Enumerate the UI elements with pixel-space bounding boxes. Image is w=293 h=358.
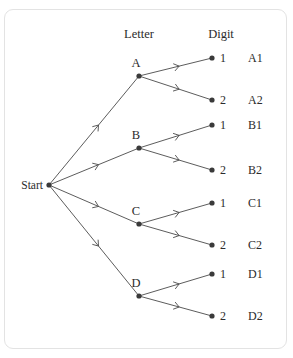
node-label-a: A [131,56,140,70]
edge-a-to-a2 [139,76,212,100]
edge-c-to-c1 [139,203,212,224]
digit-label-d1: 1 [220,267,226,281]
node-label-d: D [131,276,140,290]
node-dot-c2 [209,242,214,247]
digit-label-b1: 1 [220,118,226,132]
tree-diagram-canvas: LetterDigitStartABCD1A12A21B12B21C12C21D… [0,0,293,358]
digit-label-c1: 1 [220,196,226,210]
edge-start-to-a [49,76,139,185]
digit-label-c2: 2 [220,238,226,252]
node-dot-c [136,221,141,226]
digit-label-a1: 1 [220,51,226,65]
node-dot-d1 [209,271,214,276]
node-dot-a [136,73,141,78]
column-header-letter: Letter [124,27,155,41]
edge-start-to-c [49,185,139,224]
outcome-label-a1: A1 [248,51,263,65]
node-label-b: B [132,128,140,142]
outcome-label-a2: A2 [248,93,263,107]
edge-b-to-b2 [139,148,212,170]
node-dot-a2 [209,97,214,102]
digit-label-b2: 2 [220,163,226,177]
outcome-label-c2: C2 [248,238,262,252]
node-label-c: C [132,204,140,218]
edge-c-to-c2 [139,224,212,245]
digit-label-d2: 2 [220,309,226,323]
tree-diagram-figure: LetterDigitStartABCD1A12A21B12B21C12C21D… [0,0,293,358]
node-dot-b2 [209,167,214,172]
edge-start-to-d [49,185,139,296]
digit-label-a2: 2 [220,93,226,107]
edge-d-to-d1 [139,274,212,296]
arrowheads-group [93,64,180,309]
node-dot-d2 [209,313,214,318]
edge-start-to-b [49,148,139,185]
node-label-start: Start [21,179,44,191]
outcome-label-b2: B2 [248,163,262,177]
outcome-label-c1: C1 [248,196,262,210]
outcome-label-b1: B1 [248,118,262,132]
outcome-label-d2: D2 [248,309,263,323]
edge-b-to-b1 [139,125,212,148]
node-dot-d [136,293,141,298]
node-dot-a1 [209,55,214,60]
node-dot-b [136,145,141,150]
edge-d-to-d2 [139,296,212,316]
column-header-digit: Digit [208,27,234,41]
node-dot-start [46,182,51,187]
edge-a-to-a1 [139,58,212,76]
outcome-label-d1: D1 [248,267,263,281]
node-dot-c1 [209,200,214,205]
node-dot-b1 [209,122,214,127]
